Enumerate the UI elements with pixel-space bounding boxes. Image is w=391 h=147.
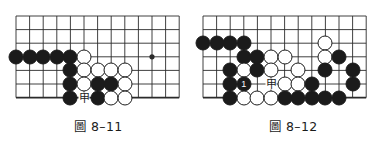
black-stone	[332, 90, 347, 105]
stones-layer-left: 甲	[0, 0, 196, 118]
point-label: 甲	[79, 92, 90, 103]
go-diagram-page: 甲 圖 8–11 1甲 圖 8–12	[0, 0, 391, 147]
black-stone	[318, 63, 333, 78]
figure-8-11: 甲 圖 8–11	[0, 0, 196, 147]
stone-move-number: 1	[237, 78, 250, 91]
white-stone	[117, 90, 132, 105]
go-board-left: 甲	[0, 0, 196, 118]
figure-caption: 圖 8–12	[195, 120, 391, 134]
black-stone	[63, 90, 78, 105]
go-board-right: 1甲	[195, 0, 391, 118]
point-label: 甲	[266, 79, 277, 90]
black-stone	[345, 77, 360, 92]
black-stone	[332, 49, 347, 64]
white-stone	[277, 49, 292, 64]
white-stone	[264, 63, 279, 78]
figure-caption: 圖 8–11	[0, 120, 196, 134]
figure-8-12: 1甲 圖 8–12	[195, 0, 391, 147]
stones-layer-right: 1甲	[195, 0, 391, 118]
